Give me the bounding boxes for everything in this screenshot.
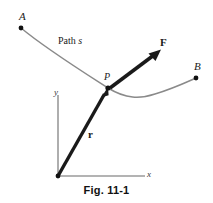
path-label-symbol: s (78, 35, 82, 46)
path-label-prefix: Path (58, 35, 76, 46)
origin-dot (56, 174, 61, 179)
figure-container: A B P Path s F r y x Fig. 11-1 (0, 0, 213, 203)
point-b-label: B (194, 61, 201, 72)
path-label: Path s (58, 36, 82, 46)
point-a-dot (19, 26, 24, 31)
force-vector-shaft (110, 55, 154, 88)
position-vector-shaft (58, 94, 105, 176)
point-p-dot (105, 85, 110, 90)
figure-caption: Fig. 11-1 (0, 184, 213, 196)
y-axis-label: y (54, 88, 58, 97)
position-vector-label: r (88, 129, 93, 140)
point-p-label: P (104, 72, 110, 82)
point-b-dot (194, 76, 199, 81)
point-a-label: A (19, 11, 26, 22)
force-vector-label: F (160, 37, 167, 48)
figure-diagram (0, 0, 213, 203)
x-axis-label: x (147, 170, 151, 179)
